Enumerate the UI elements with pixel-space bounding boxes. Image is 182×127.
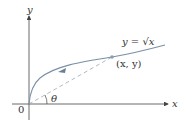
y-axis-label: y [26,4,33,15]
point-label: (x, y) [116,58,142,69]
origin-label: 0 [18,104,24,115]
point-marker [110,55,114,59]
direction-arrow-icon [58,68,66,73]
sqrt-curve [29,45,165,104]
curve-label: y = √x [121,36,155,47]
diagram-canvas: y x 0 y = √x (x, y) θ [0,0,182,127]
secant-dashed-line [29,57,112,104]
x-axis-label: x [172,98,178,109]
angle-label: θ [51,93,57,104]
angle-arc [45,95,47,104]
